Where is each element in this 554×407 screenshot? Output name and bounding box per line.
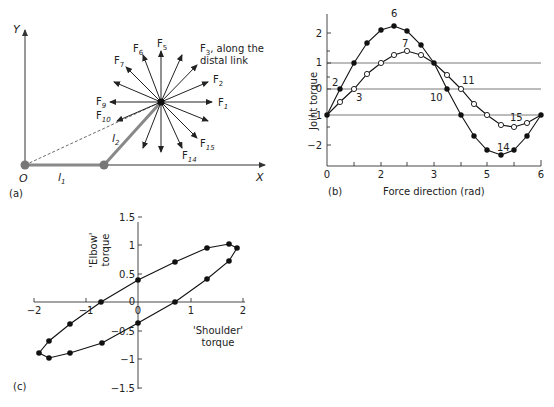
y-axis-title-line1: 'Elbow' [88,232,99,267]
y-axis-title: Joint torque [308,72,319,131]
force-arrow-3 [161,65,197,102]
shoulder-joint [21,161,30,170]
panel-c-label: (c) [13,381,26,392]
panel-a-arm-diagram: Y X O (a) l1 l2 [9,23,265,199]
y-tick-0-5: 0.5 [119,269,135,280]
y-tick-1: 1 [129,240,135,251]
y-tick-2: 2 [316,28,322,39]
force-arrow-15 [161,102,197,138]
x-axis-title: Force direction (rad) [383,186,485,197]
x-tick-6: 6 [538,169,544,180]
annotation-15: 15 [510,112,523,123]
y-tick-1-5: 1.5 [119,212,135,223]
annotation-14: 14 [497,142,510,153]
annotation-7: 7 [402,38,408,49]
y-tick-1: 1 [316,57,322,68]
x-axis-title-line1: 'Shoulder' [193,325,243,336]
annotation-6: 6 [391,8,397,19]
force-label-f10: F10 [96,110,111,124]
force-label-f2: F2 [213,74,223,88]
x-axis-label: X [255,171,264,184]
force-label-f14: F14 [182,150,197,164]
figure-canvas: Y X O (a) l1 l2 [0,0,554,407]
x-tick-0: 0 [324,169,330,180]
force-label-f6: F6 [133,43,144,57]
origin-label: O [19,172,28,185]
series-filled-line [327,26,541,155]
link-1-label: l1 [58,171,66,186]
x-tick-2: 2 [240,305,246,316]
x-tick-0: 0 [135,305,141,316]
force-arrow-7 [126,67,161,102]
x-tick-3: 3 [431,169,437,180]
x-axis-title-line2: torque [202,337,235,348]
force-label-f5: F5 [157,38,167,52]
x-tick-minus-1: −1 [79,305,94,316]
panel-c-torque-loop: 1.5 1 0.5 0 −0.5 −1 −1.5 −2 −1 0 1 2 'Sh… [13,212,246,394]
elbow-joint [100,161,109,170]
annotation-10: 10 [430,92,443,103]
panel-b-torque-chart: 2 1 0 −1 −2 0 2 3 5 6 Force direction (r… [307,8,544,197]
y-tick-minus-2: −2 [307,140,322,151]
panel-a-label: (a) [9,188,23,199]
force-label-f15: F15 [200,138,215,152]
link-2-label: l2 [112,132,120,147]
force-label-f7: F7 [114,55,124,69]
x-tick-2: 2 [378,169,384,180]
annotation-11: 11 [462,75,475,86]
x-tick-5: 5 [484,169,490,180]
force-arrow-4 [161,55,182,102]
x-tick-1: 1 [188,305,194,316]
annotation-3: 3 [356,92,362,103]
panel-b-label: (b) [328,186,342,197]
reach-dashed-line [25,102,161,165]
y-tick-minus-1-5: −1.5 [111,383,135,394]
series-filled-markers [324,23,543,157]
force-arrow-8 [114,82,161,102]
y-tick-minus-1: −1 [120,354,135,365]
force-label-f3-line2: distal link [200,55,248,66]
y-axis-title-line2: torque [100,234,111,267]
annotation-2: 2 [332,77,338,88]
endpoint-hand [158,99,165,106]
force-label-f9: F9 [96,96,107,110]
x-tick-minus-2: −2 [27,305,42,316]
y-axis-label: Y [13,23,21,36]
force-label-f1: F1 [218,97,228,111]
